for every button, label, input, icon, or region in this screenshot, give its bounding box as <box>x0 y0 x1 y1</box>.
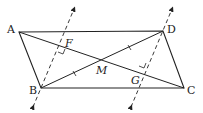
right-angle-g-icon <box>139 63 146 68</box>
diagonal-bd <box>41 31 163 88</box>
geometry-diagram: A D B C M F G <box>0 0 203 113</box>
label-d: D <box>167 23 176 36</box>
label-f: F <box>64 37 73 50</box>
dashed-line-dg <box>131 9 172 107</box>
label-b: B <box>29 84 37 97</box>
label-c: C <box>187 84 195 97</box>
label-g: G <box>131 74 140 87</box>
label-a: A <box>6 23 16 36</box>
label-m: M <box>95 64 108 77</box>
right-angle-f-icon <box>58 49 65 54</box>
diagram-canvas: A D B C M F G <box>0 0 203 113</box>
dashed-line-bf <box>33 9 74 107</box>
